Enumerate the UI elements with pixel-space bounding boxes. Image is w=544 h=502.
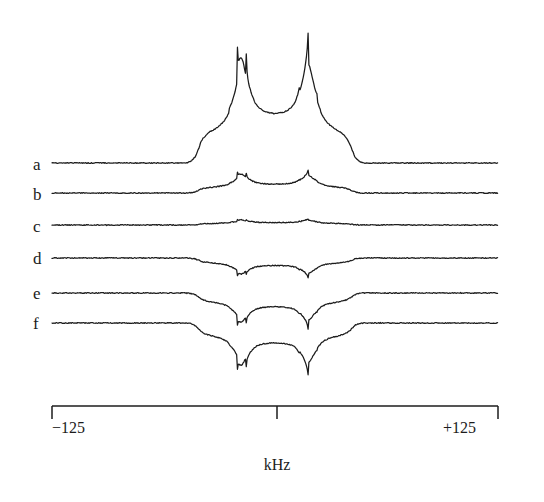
spectrum-trace-a <box>52 33 498 163</box>
trace-label-e: e <box>33 285 41 302</box>
spectrum-trace-d <box>52 258 498 278</box>
x-axis-group <box>52 406 498 419</box>
spectra-figure: abcdef −125 +125 kHz <box>0 0 544 502</box>
spectrum-trace-c <box>52 219 498 225</box>
axis-tick-label-max: +125 <box>443 420 476 436</box>
trace-paths-group <box>52 33 498 375</box>
trace-label-c: c <box>33 218 41 235</box>
axis-tick-label-min: −125 <box>52 420 85 436</box>
trace-label-d: d <box>33 250 42 267</box>
spectrum-trace-f <box>52 323 498 375</box>
trace-label-a: a <box>33 156 41 173</box>
trace-label-b: b <box>33 186 42 203</box>
axis-title: kHz <box>227 457 327 473</box>
trace-label-f: f <box>33 315 39 332</box>
spectrum-trace-b <box>52 170 498 193</box>
